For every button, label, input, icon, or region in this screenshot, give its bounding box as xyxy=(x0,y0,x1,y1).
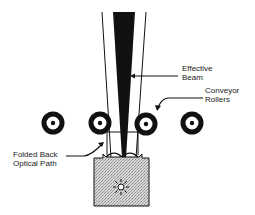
conveyor-roller xyxy=(137,115,155,133)
conveyor-rollers-leader xyxy=(158,98,203,108)
effective-beam-label-line2: Beam xyxy=(182,73,213,82)
folded-path-leader xyxy=(66,144,102,156)
diagram-canvas xyxy=(0,0,255,215)
effective-beam-label-line1: Effective xyxy=(182,64,213,73)
conveyor-roller xyxy=(183,114,201,132)
folded-path-label: Folded Back Optical Path xyxy=(13,150,57,168)
leader-lines xyxy=(66,74,203,157)
conveyor-rollers-label-line1: Conveyor xyxy=(205,86,239,95)
folded-path-label-line1: Folded Back xyxy=(13,150,57,159)
conveyor-roller xyxy=(91,114,109,132)
conveyor-rollers-label: Conveyor Rollers xyxy=(205,86,239,104)
effective-beam-label: Effective Beam xyxy=(182,64,213,82)
light-source-icon xyxy=(113,179,129,195)
folded-path-label-line2: Optical Path xyxy=(13,159,57,168)
scanner-diagram: Effective Beam Conveyor Rollers Folded B… xyxy=(0,0,255,215)
effective-beam xyxy=(113,12,135,158)
conveyor-rollers-label-line2: Rollers xyxy=(205,95,239,104)
conveyor-roller xyxy=(44,114,62,132)
